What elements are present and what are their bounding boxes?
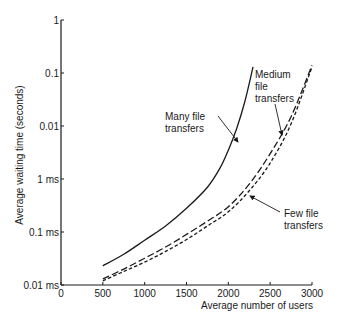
waiting-time-chart: 0.01 ms0.1 ms1 ms0.010.11 05001000150020… xyxy=(0,0,339,334)
x-axis: 050010001500200025003000 xyxy=(58,282,323,299)
x-tick-label: 500 xyxy=(94,288,111,299)
x-tick-label: 2000 xyxy=(217,288,240,299)
annotation-arrow-icon xyxy=(275,104,282,135)
y-axis-title: Average waiting time (seconds) xyxy=(14,85,25,224)
annotation-arrow-icon xyxy=(218,116,238,142)
annotation-label: file xyxy=(255,81,268,92)
y-tick-label: 0.01 ms xyxy=(23,280,59,291)
x-tick-label: 3000 xyxy=(301,288,324,299)
x-tick-label: 0 xyxy=(58,288,64,299)
y-tick-label: 0.01 xyxy=(40,121,60,132)
x-tick-label: 1000 xyxy=(134,288,157,299)
annotation-label: Many file xyxy=(165,111,205,122)
y-tick-label: 1 ms xyxy=(37,174,59,185)
annotation-label: transfers xyxy=(165,123,204,134)
annotation-label: transfers xyxy=(255,93,294,104)
annotation-label: Few file xyxy=(284,208,319,219)
annotation-label: transfers xyxy=(284,220,323,231)
y-tick-label: 0.1 ms xyxy=(29,227,59,238)
y-tick-label: 0.1 xyxy=(45,68,59,79)
series-line-many-file-transfers xyxy=(103,67,253,266)
y-tick-label: 1 xyxy=(53,15,59,26)
x-tick-label: 2500 xyxy=(259,288,282,299)
x-tick-label: 1500 xyxy=(175,288,198,299)
annotation-arrow-icon xyxy=(250,196,280,212)
x-axis-title: Average number of users xyxy=(201,300,313,311)
y-axis: 0.01 ms0.1 ms1 ms0.010.11 xyxy=(23,15,64,291)
annotation-label: Medium xyxy=(255,69,291,80)
